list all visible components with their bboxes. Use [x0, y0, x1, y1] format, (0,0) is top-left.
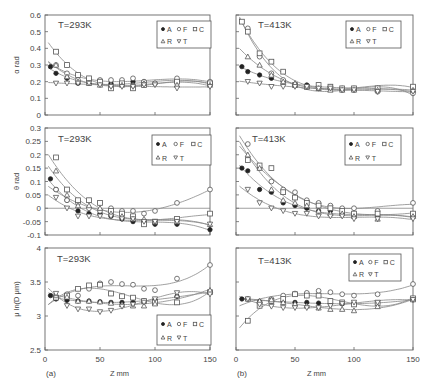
- marker-C: [383, 27, 386, 30]
- marker-C: [316, 293, 321, 298]
- panel-title: T=293K: [58, 133, 92, 144]
- fit-curve-T: [240, 81, 412, 92]
- marker-C: [328, 206, 333, 211]
- legend-label-F: F: [183, 321, 187, 328]
- marker-C: [328, 299, 333, 304]
- y-tick-label: 4: [37, 244, 42, 253]
- marker-C: [76, 73, 81, 78]
- data-points: [48, 49, 212, 91]
- marker-A: [161, 28, 164, 31]
- marker-F: [109, 280, 114, 285]
- marker-F: [120, 282, 125, 287]
- y-tick-label: 2.5: [30, 346, 42, 355]
- marker-F: [65, 198, 70, 203]
- marker-R: [269, 187, 274, 192]
- panel-title: T=293K: [58, 19, 92, 30]
- marker-C: [175, 300, 180, 305]
- legend: AFCRT: [157, 315, 211, 345]
- panel-theta-413: T=413KAFCRT: [236, 128, 416, 235]
- marker-F: [369, 260, 372, 263]
- marker-A: [156, 142, 159, 145]
- marker-C: [76, 286, 81, 291]
- x-tick-label: 150: [406, 355, 420, 364]
- panel-title: T=413K: [252, 133, 286, 144]
- y-axis-label: θ rad: [12, 173, 21, 190]
- marker-C: [98, 282, 103, 287]
- panel-label: (b): [237, 369, 247, 378]
- marker-T: [75, 214, 80, 219]
- figure-grid: 00.10.20.30.40.50.6α radT=293KAFCRTT=413…: [0, 0, 431, 383]
- marker-C: [269, 59, 274, 64]
- x-axis-label: Z mm: [307, 369, 326, 378]
- marker-F: [208, 263, 213, 268]
- marker-A: [54, 71, 58, 75]
- marker-T: [351, 217, 356, 222]
- y-tick-label: 0.4: [30, 44, 42, 53]
- marker-C: [54, 49, 59, 54]
- marker-F: [366, 142, 369, 145]
- fit-curve-A: [48, 180, 209, 230]
- marker-C: [384, 260, 387, 263]
- y-tick-label: 0: [37, 111, 42, 120]
- marker-T: [257, 201, 262, 206]
- marker-F: [142, 286, 147, 291]
- marker-F: [177, 27, 180, 30]
- y-tick-label: 0.05: [25, 191, 41, 200]
- marker-A: [246, 169, 250, 173]
- data-points: [48, 263, 212, 315]
- marker-F: [316, 288, 321, 293]
- fit-curve-T: [48, 83, 209, 88]
- legend: AFCRT: [157, 21, 211, 48]
- panel-title: T=413K: [258, 255, 292, 266]
- marker-F: [174, 142, 177, 145]
- marker-T: [64, 304, 69, 309]
- y-tick-label: 0.3: [30, 124, 42, 133]
- legend-label-C: C: [388, 141, 393, 148]
- marker-F: [352, 206, 357, 211]
- marker-T: [281, 85, 286, 90]
- y-axis-label: μ ln(D μm): [12, 281, 21, 317]
- x-tick-label: 100: [148, 355, 162, 364]
- fit-curves: [240, 285, 412, 328]
- legend-label-C: C: [197, 141, 202, 148]
- marker-F: [175, 276, 180, 281]
- legend-label-A: A: [167, 26, 172, 33]
- marker-F: [328, 290, 333, 295]
- marker-C: [383, 142, 386, 145]
- legend-label-R: R: [356, 38, 361, 45]
- fit-curve-R: [48, 61, 209, 86]
- panel-alpha-293: 00.10.20.30.40.50.6α radT=293KAFCRT: [12, 11, 213, 120]
- legend-label-T: T: [372, 38, 377, 45]
- marker-C: [65, 63, 70, 68]
- legend-label-T: T: [180, 155, 185, 162]
- marker-C: [192, 142, 195, 145]
- fit-curves: [48, 43, 209, 87]
- legend-label-F: F: [183, 26, 187, 33]
- marker-C: [316, 203, 321, 208]
- x-tick-label: 50: [291, 355, 300, 364]
- marker-C: [208, 211, 213, 216]
- marker-T: [340, 214, 345, 219]
- marker-A: [246, 70, 250, 74]
- y-tick-label: -0.05: [23, 218, 42, 227]
- marker-T: [174, 86, 179, 91]
- marker-F: [142, 211, 147, 216]
- marker-C: [87, 283, 92, 288]
- marker-R: [64, 192, 69, 197]
- marker-T: [97, 310, 102, 315]
- panel-mu-413: 050100150Z mm(b)T=413KAFCRT: [234, 248, 420, 378]
- y-tick-label: 0.3: [30, 61, 42, 70]
- legend-label-F: F: [372, 141, 376, 148]
- fit-curves: [48, 155, 209, 231]
- marker-F: [131, 76, 136, 81]
- marker-F: [352, 293, 357, 298]
- marker-C: [245, 29, 250, 34]
- marker-C: [245, 158, 250, 163]
- marker-F: [411, 201, 416, 206]
- marker-T: [75, 307, 80, 312]
- marker-A: [48, 293, 52, 297]
- marker-F: [153, 209, 158, 214]
- x-axis-label: Z mm: [110, 369, 129, 378]
- marker-F: [340, 292, 345, 297]
- y-tick-label: 0.25: [25, 137, 41, 146]
